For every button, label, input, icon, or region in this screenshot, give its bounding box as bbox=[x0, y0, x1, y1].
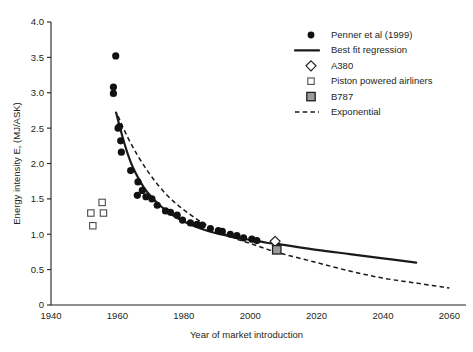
y-axis-title: Energy intensity E, (MJ/ASK) bbox=[11, 102, 22, 224]
data-point-penner bbox=[227, 231, 234, 238]
data-point-penner bbox=[167, 209, 174, 216]
x-tick-label: 2020 bbox=[306, 310, 327, 321]
y-tick-label: 3.0 bbox=[31, 87, 44, 98]
best-fit-curve bbox=[116, 113, 416, 263]
data-point-penner bbox=[240, 234, 247, 241]
legend-marker-open-diamond-icon bbox=[306, 61, 316, 71]
chart-axes bbox=[51, 22, 466, 305]
legend-label: Exponential bbox=[331, 106, 381, 117]
legend-label: Penner et al (1999) bbox=[331, 29, 412, 40]
data-point-penner bbox=[174, 212, 181, 219]
data-point-penner bbox=[134, 178, 141, 185]
data-point-penner bbox=[134, 192, 141, 199]
y-tick-label: 2.0 bbox=[31, 158, 44, 169]
y-tick-label: 0.5 bbox=[31, 264, 44, 275]
y-tick-label: 2.5 bbox=[31, 123, 44, 134]
data-point-penner bbox=[154, 202, 161, 209]
data-point-piston bbox=[90, 223, 96, 229]
data-point-penner bbox=[187, 219, 194, 226]
data-point-penner bbox=[148, 195, 155, 202]
data-point-penner bbox=[219, 228, 226, 235]
x-axis-title: Year of market introduction bbox=[190, 329, 303, 340]
legend-marker-gray-square-icon bbox=[307, 92, 315, 100]
data-point-piston bbox=[99, 199, 105, 205]
y-tick-label: 0 bbox=[39, 299, 44, 310]
data-point-penner bbox=[117, 137, 124, 144]
exponential-curve bbox=[118, 116, 449, 288]
legend-label: Best fit regression bbox=[331, 44, 407, 55]
x-tick-label: 2000 bbox=[240, 310, 261, 321]
data-point-b787 bbox=[273, 246, 281, 254]
data-point-piston bbox=[100, 210, 106, 216]
chart-canvas: 00.51.01.52.02.53.03.54.0194019601980200… bbox=[0, 0, 473, 352]
data-point-penner bbox=[110, 83, 117, 90]
data-point-penner bbox=[233, 232, 240, 239]
data-point-penner bbox=[118, 149, 125, 156]
legend-label: B787 bbox=[331, 91, 353, 102]
y-tick-label: 1.5 bbox=[31, 193, 44, 204]
energy-intensity-chart: 00.51.01.52.02.53.03.54.0194019601980200… bbox=[0, 0, 473, 352]
data-point-penner bbox=[207, 225, 214, 232]
data-point-penner bbox=[127, 167, 134, 174]
x-tick-label: 2040 bbox=[372, 310, 393, 321]
data-point-penner bbox=[179, 217, 186, 224]
legend-marker-open-square-icon bbox=[308, 78, 314, 84]
x-tick-label: 1940 bbox=[40, 310, 61, 321]
legend-label: A380 bbox=[331, 60, 353, 71]
y-tick-label: 3.5 bbox=[31, 52, 44, 63]
data-point-penner bbox=[114, 125, 121, 132]
data-point-penner bbox=[112, 52, 119, 59]
y-tick-label: 4.0 bbox=[31, 16, 44, 27]
y-tick-label: 1.0 bbox=[31, 229, 44, 240]
data-point-piston bbox=[88, 210, 94, 216]
x-tick-label: 2060 bbox=[439, 310, 460, 321]
legend-label: Piston powered airliners bbox=[331, 75, 433, 86]
x-tick-label: 1960 bbox=[107, 310, 128, 321]
legend-marker-filled-circle-icon bbox=[308, 32, 315, 39]
x-tick-label: 1980 bbox=[173, 310, 194, 321]
data-point-penner bbox=[199, 221, 206, 228]
data-point-penner bbox=[110, 90, 117, 97]
data-point-penner bbox=[253, 237, 260, 244]
